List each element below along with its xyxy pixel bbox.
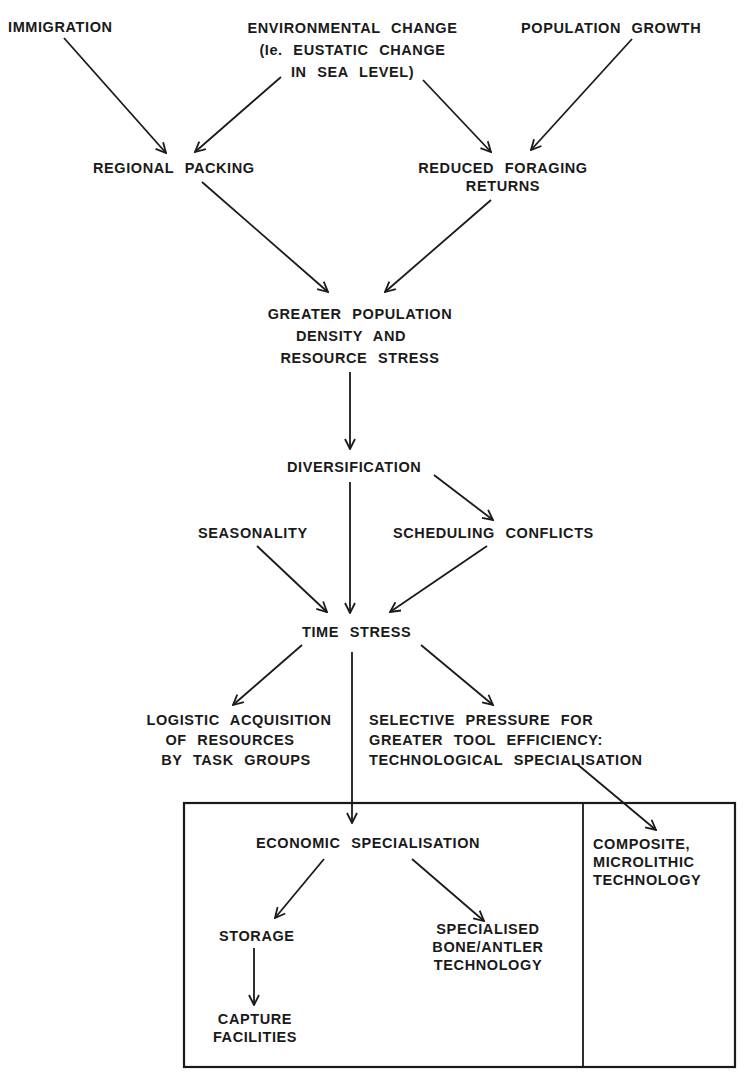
arrow-immigration-to-regional-packing bbox=[64, 38, 166, 153]
node-population-growth: POPULATION GROWTH bbox=[521, 17, 701, 39]
node-greater-population-density: GREATER POPULATION DENSITY AND RESOURCE … bbox=[255, 303, 465, 369]
node-capture-line-2: FACILITIES bbox=[200, 1026, 310, 1048]
node-immigration: IMMIGRATION bbox=[8, 16, 113, 38]
arrow-time-stress-to-selective-pressure bbox=[421, 645, 493, 705]
node-logistic-line-2: OF RESOURCES bbox=[117, 729, 343, 751]
node-selective-pressure-line-1: SELECTIVE PRESSURE FOR bbox=[369, 709, 643, 731]
node-environmental-change-line-2: (Ie. EUSTATIC CHANGE bbox=[235, 39, 470, 61]
node-capture-facilities: CAPTURE FACILITIES bbox=[200, 1008, 310, 1048]
node-composite-microlithic: COMPOSITE, MICROLITHIC TECHNOLOGY bbox=[593, 833, 701, 891]
arrow-economic-to-bone-antler bbox=[412, 859, 484, 921]
arrow-scheduling-to-time-stress bbox=[390, 546, 487, 612]
node-diversification: DIVERSIFICATION bbox=[287, 456, 421, 478]
node-environmental-change-line-3: IN SEA LEVEL) bbox=[235, 61, 470, 83]
node-selective-pressure: SELECTIVE PRESSURE FOR GREATER TOOL EFFI… bbox=[369, 709, 643, 771]
arrow-environment-to-regional-packing bbox=[195, 77, 281, 152]
node-time-stress: TIME STRESS bbox=[302, 621, 411, 643]
arrow-population-growth-to-reduced-foraging bbox=[531, 39, 632, 150]
arrow-diversification-to-scheduling-conflicts bbox=[434, 475, 493, 520]
node-selective-pressure-line-3: TECHNOLOGICAL SPECIALISATION bbox=[369, 749, 643, 771]
node-logistic-acquisition: LOGISTIC ACQUISITION OF RESOURCES BY TAS… bbox=[135, 709, 343, 771]
node-scheduling-conflicts: SCHEDULING CONFLICTS bbox=[393, 522, 594, 544]
node-greater-population-line-1: GREATER POPULATION bbox=[255, 303, 465, 325]
node-logistic-line-3: BY TASK GROUPS bbox=[129, 749, 343, 771]
node-economic-specialisation: ECONOMIC SPECIALISATION bbox=[256, 832, 480, 854]
node-reduced-foraging-returns: REDUCED FORAGING RETURNS bbox=[405, 157, 601, 197]
node-greater-population-line-3: RESOURCE STRESS bbox=[255, 347, 465, 369]
node-regional-packing: REGIONAL PACKING bbox=[93, 157, 255, 179]
node-specialised-bone-antler: SPECIALISED BONE/ANTLER TECHNOLOGY bbox=[408, 918, 568, 976]
node-logistic-line-1: LOGISTIC ACQUISITION bbox=[135, 709, 343, 731]
arrow-environment-to-reduced-foraging bbox=[423, 80, 491, 152]
arrow-reduced-foraging-to-greater-population bbox=[385, 200, 491, 292]
node-environmental-change: ENVIRONMENTAL CHANGE (Ie. EUSTATIC CHANG… bbox=[235, 17, 470, 83]
node-storage: STORAGE bbox=[219, 925, 295, 947]
arrow-time-stress-to-logistic bbox=[233, 645, 302, 705]
arrow-economic-to-storage bbox=[275, 859, 324, 918]
node-greater-population-line-2: DENSITY AND bbox=[237, 325, 465, 347]
node-seasonality: SEASONALITY bbox=[198, 522, 308, 544]
arrow-seasonality-to-time-stress bbox=[257, 546, 327, 612]
node-composite-line-3: TECHNOLOGY bbox=[593, 869, 701, 891]
arrow-selective-pressure-to-composite bbox=[577, 764, 656, 830]
flow-diagram: IMMIGRATION ENVIRONMENTAL CHANGE (Ie. EU… bbox=[0, 0, 748, 1075]
arrow-regional-packing-to-greater-population bbox=[202, 182, 328, 292]
node-environmental-change-line-1: ENVIRONMENTAL CHANGE bbox=[235, 17, 470, 39]
node-selective-pressure-line-2: GREATER TOOL EFFICIENCY: bbox=[369, 729, 643, 751]
